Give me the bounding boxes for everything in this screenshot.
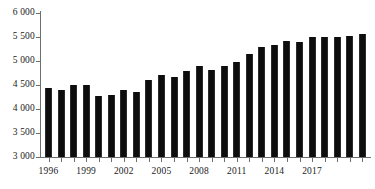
x-axis-tick-label: 2008 xyxy=(189,166,209,176)
x-axis-tick xyxy=(161,158,162,162)
x-axis-tick xyxy=(300,158,301,162)
x-axis-tick xyxy=(111,158,112,162)
y-axis-tick-label: 4 500 xyxy=(0,80,35,90)
x-axis-tick xyxy=(274,158,275,162)
x-axis-tick-label: 2011 xyxy=(227,166,246,176)
bar xyxy=(171,77,178,157)
x-axis-tick xyxy=(350,158,351,162)
bar xyxy=(45,88,52,157)
bar xyxy=(183,71,190,157)
bar xyxy=(309,37,316,157)
x-axis-tick xyxy=(262,158,263,162)
bar xyxy=(258,47,265,157)
x-axis-tick xyxy=(237,158,238,162)
x-axis-tick-label: 2017 xyxy=(302,166,322,176)
x-axis-tick xyxy=(312,158,313,162)
x-axis-tick xyxy=(49,158,50,162)
y-axis-tick-label: 6 000 xyxy=(0,8,35,18)
bar xyxy=(58,90,65,157)
x-axis-tick xyxy=(287,158,288,162)
x-axis-tick xyxy=(249,158,250,162)
x-axis-tick xyxy=(199,158,200,162)
x-axis-tick-label: 1999 xyxy=(76,166,96,176)
x-axis-tick-label: 2005 xyxy=(152,166,172,176)
bar xyxy=(246,54,253,157)
bar xyxy=(196,66,203,157)
bar xyxy=(70,85,77,157)
x-axis-tick xyxy=(325,158,326,162)
x-axis-tick xyxy=(61,158,62,162)
bar xyxy=(283,41,290,157)
bar xyxy=(133,92,140,157)
y-axis-tick-label: 3 000 xyxy=(0,152,35,162)
bar xyxy=(334,37,341,157)
x-axis-tick xyxy=(74,158,75,162)
x-axis-tick xyxy=(362,158,363,162)
x-axis-tick xyxy=(224,158,225,162)
plot-area xyxy=(41,13,371,157)
y-axis-tick xyxy=(36,157,41,158)
bar xyxy=(95,96,102,157)
x-axis-tick xyxy=(136,158,137,162)
bar xyxy=(321,37,328,157)
x-axis-line xyxy=(40,157,371,158)
x-axis-tick xyxy=(187,158,188,162)
x-axis-tick-label: 2002 xyxy=(114,166,134,176)
bar xyxy=(296,42,303,157)
bar xyxy=(145,80,152,157)
bar-chart: 6 0005 5005 0004 5004 0003 5003 000 1996… xyxy=(0,0,375,189)
bar xyxy=(359,34,366,157)
x-axis-tick-label: 2014 xyxy=(264,166,284,176)
x-axis-tick xyxy=(99,158,100,162)
bar xyxy=(346,36,353,157)
bar xyxy=(271,45,278,157)
bar xyxy=(208,70,215,157)
x-axis-tick-label: 1996 xyxy=(39,166,59,176)
x-axis-tick xyxy=(86,158,87,162)
bar xyxy=(233,62,240,157)
y-axis-tick-label: 3 500 xyxy=(0,128,35,138)
bar xyxy=(221,66,228,157)
y-axis-tick-label: 5 000 xyxy=(0,56,35,66)
bar xyxy=(108,95,115,157)
y-axis-tick-label: 4 000 xyxy=(0,104,35,114)
x-axis-tick xyxy=(149,158,150,162)
x-axis-tick xyxy=(124,158,125,162)
y-axis-tick-label: 5 500 xyxy=(0,32,35,42)
bar xyxy=(158,75,165,157)
bar xyxy=(120,90,127,157)
x-axis-tick xyxy=(174,158,175,162)
x-axis-tick xyxy=(212,158,213,162)
x-axis-tick xyxy=(337,158,338,162)
bar xyxy=(83,85,90,157)
